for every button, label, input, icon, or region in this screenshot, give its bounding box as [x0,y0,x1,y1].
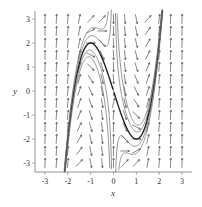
slope-arrow [67,110,69,120]
slope-arrow [87,64,94,71]
slope-arrow [56,110,58,120]
x-tick-label: -1 [87,177,94,186]
slope-arrow [146,86,149,95]
x-tick-label: 1 [134,177,138,186]
slope-arrow [56,38,58,48]
slope-arrow [101,134,103,144]
y-axis-label: y [12,86,17,96]
slope-arrow [44,122,46,132]
slope-arrow [113,14,115,24]
slope-arrow [56,134,58,144]
slope-arrow [170,146,172,156]
slope-arrow [56,86,58,96]
slope-arrow [181,122,183,132]
slope-arrow [44,98,46,108]
slope-arrow [44,50,46,60]
slope-arrow [181,14,183,24]
slope-arrow [56,14,58,24]
slope-arrow [135,38,138,48]
slope-arrow [86,53,94,57]
slope-arrow [170,38,172,48]
slope-arrow [124,14,126,24]
slope-arrow [134,99,139,107]
slope-arrow [170,14,172,24]
slope-arrow [78,26,80,36]
slope-arrow [146,74,150,83]
y-tick-label: -3 [23,159,30,168]
slope-arrow [132,125,140,129]
slope-arrow [145,27,151,35]
slope-arrow [181,110,183,120]
slope-arrow [133,112,140,119]
slope-arrow [134,87,138,96]
slope-arrow [101,62,104,71]
slope-arrow [170,62,172,72]
slope-arrow [181,74,183,84]
y-tick-label: 2 [26,39,30,48]
slope-arrow [67,62,69,72]
slope-arrow [122,160,129,167]
slope-arrow [101,146,103,156]
slope-arrow [56,62,58,72]
slope-arrow [159,14,161,24]
slope-arrow [77,110,81,119]
slope-arrow [44,110,46,120]
slope-arrow [158,86,160,96]
slope-arrow [146,62,150,71]
slope-arrow [90,158,92,168]
slope-arrow [101,110,103,120]
slope-arrow [77,123,81,132]
slope-arrow [124,74,126,84]
slope-arrow [44,158,46,168]
slope-arrow [181,62,183,72]
slope-arrow [67,38,69,48]
slope-arrow [67,86,69,96]
slope-arrow [44,26,46,36]
slope-arrow [78,38,81,48]
slope-arrow [158,74,160,84]
slope-arrow [147,134,150,144]
slope-arrow [56,50,58,60]
slope-arrow [89,110,92,119]
slope-arrow [56,122,58,132]
slope-arrow [112,98,115,108]
slope-arrow [124,50,126,60]
slope-arrow [76,160,83,167]
x-tick-label: 2 [157,177,161,186]
slope-arrow [78,98,82,107]
slope-arrow [113,158,115,168]
slope-arrow [113,110,115,120]
slope-arrow [170,74,172,84]
slope-arrow [90,146,93,156]
slope-arrow [90,134,93,144]
slope-arrow [120,150,129,152]
slope-arrow [56,74,58,84]
y-tick-label: -2 [23,135,30,144]
slope-arrow [44,134,46,144]
slope-arrow [67,14,69,24]
slope-arrow [44,86,46,96]
x-axis-label: x [110,188,115,198]
slope-arrow [101,122,103,132]
slope-arrow [78,86,81,95]
slope-arrow [181,158,183,168]
slope-arrow [158,158,160,168]
slope-arrow [101,158,103,168]
slope-arrow [170,134,172,144]
slope-arrow [181,98,183,108]
solution-curve [64,9,111,171]
slope-arrow [181,38,183,48]
slope-arrow [76,147,82,155]
slope-arrow [181,86,183,96]
slope-arrow [44,74,46,84]
slope-arrow [44,62,46,72]
slope-arrow [133,160,140,167]
y-tick-label: 0 [26,87,30,96]
slope-arrow [170,110,172,120]
y-tick-label: 3 [26,15,30,24]
slope-arrow [113,134,115,144]
slope-arrow [170,26,172,36]
slope-arrow [124,62,126,72]
slope-arrow [158,134,160,144]
slope-arrow [44,146,46,156]
